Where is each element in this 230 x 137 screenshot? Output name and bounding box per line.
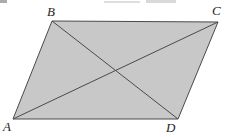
parallelogram-diagram — [0, 0, 230, 137]
geometry-figure: B C A D — [0, 0, 230, 137]
vertex-label-c: C — [212, 4, 221, 17]
vertex-label-a: A — [3, 120, 11, 133]
vertex-label-d: D — [166, 121, 175, 134]
vertex-label-b: B — [47, 5, 55, 18]
